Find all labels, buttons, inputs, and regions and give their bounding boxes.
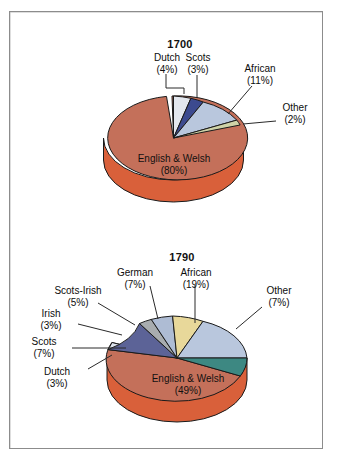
slice-label-other-1790-pct: (7%) bbox=[252, 297, 306, 309]
slice-label-irish-1790-name: Irish bbox=[42, 308, 61, 319]
slice-label-other-1700: Other (2%) bbox=[267, 102, 323, 125]
slice-label-scots-irish-1790-pct: (5%) bbox=[44, 297, 112, 309]
slice-label-german-1790: German (7%) bbox=[104, 267, 166, 290]
slice-label-scots-1700: Scots (3%) bbox=[173, 52, 223, 75]
slice-label-english-welsh-1790-pct: (49%) bbox=[124, 385, 252, 397]
leader-line-german-1790 bbox=[150, 286, 158, 319]
slice-label-dutch-1790-name: Dutch bbox=[44, 366, 70, 377]
slice-label-scots-1790: Scots (7%) bbox=[18, 336, 70, 359]
slice-label-irish-1790: Irish (3%) bbox=[26, 308, 76, 331]
slice-label-scots-1700-name: Scots bbox=[185, 52, 210, 63]
slice-label-english-welsh-1790: English & Welsh (49%) bbox=[124, 373, 252, 396]
slice-label-english-welsh-1700-pct: (80%) bbox=[110, 165, 238, 177]
slice-label-african-1790-pct: (19%) bbox=[166, 279, 226, 291]
leader-line-dutch-1700 bbox=[166, 74, 184, 94]
slice-label-irish-1790-pct: (3%) bbox=[26, 320, 76, 332]
slice-label-english-welsh-1790-name: English & Welsh bbox=[152, 373, 225, 384]
figure-container: 1700 bbox=[0, 0, 338, 462]
slice-label-african-1700-pct: (11%) bbox=[227, 75, 293, 87]
pie-chart-1790: 1790 bbox=[0, 231, 338, 462]
leader-line-irish-1790 bbox=[78, 324, 122, 335]
slice-label-dutch-1790-pct: (3%) bbox=[30, 378, 84, 390]
slice-label-scots-irish-1790-name: Scots-Irish bbox=[54, 285, 101, 296]
slice-label-english-welsh-1700-name: English & Welsh bbox=[138, 153, 211, 164]
slice-label-dutch-1790: Dutch (3%) bbox=[30, 366, 84, 389]
slice-label-german-1790-name: German bbox=[117, 267, 153, 278]
pie-chart-1700: 1700 bbox=[0, 0, 338, 231]
leader-line-other-1790 bbox=[236, 307, 262, 329]
slice-label-african-1790-name: African bbox=[180, 267, 211, 278]
leader-line-african-1700 bbox=[228, 86, 252, 114]
slice-label-scots-1700-pct: (3%) bbox=[173, 64, 223, 76]
slice-label-other-1700-name: Other bbox=[282, 102, 307, 113]
slice-label-english-welsh-1700: English & Welsh (80%) bbox=[110, 153, 238, 176]
slice-label-scots-1790-pct: (7%) bbox=[18, 348, 70, 360]
slice-label-other-1790: Other (7%) bbox=[252, 285, 306, 308]
slice-label-german-1790-pct: (7%) bbox=[104, 279, 166, 291]
slice-label-other-1700-pct: (2%) bbox=[267, 114, 323, 126]
slice-label-african-1700: African (11%) bbox=[227, 63, 293, 86]
slice-label-african-1790: African (19%) bbox=[166, 267, 226, 290]
slice-label-other-1790-name: Other bbox=[266, 285, 291, 296]
slice-label-scots-irish-1790: Scots-Irish (5%) bbox=[44, 285, 112, 308]
slice-label-african-1700-name: African bbox=[244, 63, 275, 74]
slice-label-scots-1790-name: Scots bbox=[31, 336, 56, 347]
